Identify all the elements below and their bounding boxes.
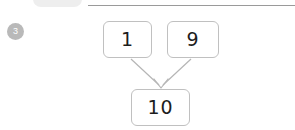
number-box-part-a[interactable]: 1 xyxy=(103,21,152,58)
worksheet-page: 3 1 9 10 xyxy=(0,0,295,130)
arrow-line-part-a xyxy=(131,59,159,85)
arrow-line-part-b xyxy=(163,59,191,85)
arrowhead-icon xyxy=(154,79,168,88)
number-box-whole-value: 10 xyxy=(132,90,189,125)
number-box-part-b-value: 9 xyxy=(168,22,218,57)
number-bond-diagram: 1 9 10 xyxy=(0,0,295,130)
number-box-part-a-value: 1 xyxy=(104,22,151,57)
number-box-part-b[interactable]: 9 xyxy=(167,21,219,58)
number-box-whole[interactable]: 10 xyxy=(131,89,190,126)
